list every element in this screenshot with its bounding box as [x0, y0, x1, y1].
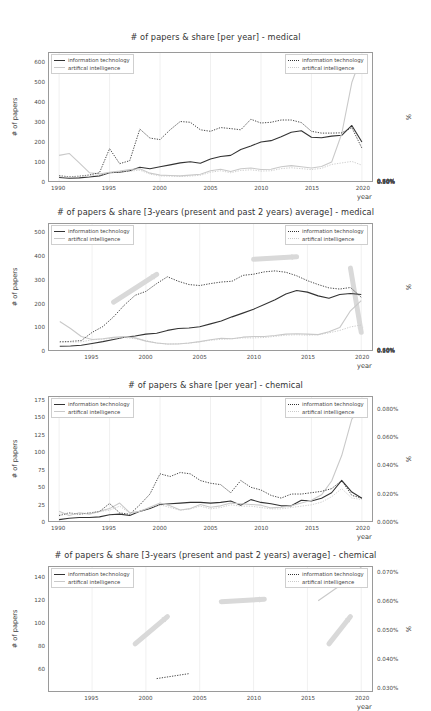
legend-item[interactable]: information technology [288, 228, 364, 234]
legend-item[interactable]: artifical intelligence [54, 65, 130, 71]
legend-line-swatch [54, 60, 65, 61]
legend-item[interactable]: information technology [288, 571, 364, 577]
x-axis-tick-label: 1990 [51, 525, 65, 531]
legend-right[interactable]: information technologyartifical intellig… [285, 568, 368, 588]
x-axis-tick-label: 2020 [355, 354, 369, 360]
x-axis-tick-label: 2005 [193, 695, 207, 701]
annotation-arrow [135, 617, 167, 644]
x-axis-label: year [357, 193, 372, 201]
secondary-y-axis-label: % [405, 284, 413, 290]
x-axis-tick-label: 2000 [153, 525, 167, 531]
legend-line-swatch [54, 404, 65, 405]
secondary-y-axis-tick-label: 0.060% [377, 434, 398, 440]
legend-line-swatch [288, 60, 299, 61]
x-axis-tick-label: 2010 [247, 695, 261, 701]
legend-item-label: artifical intelligence [302, 65, 354, 71]
legend-left[interactable]: information technologyartifical intellig… [51, 568, 134, 588]
annotation-arrow [350, 268, 361, 332]
legend-right[interactable]: information technologyartifical intellig… [285, 225, 368, 245]
x-axis-tick-label: 2000 [153, 185, 167, 191]
secondary-y-axis-label: % [405, 626, 413, 632]
y-axis-tick-label: 175 [26, 397, 45, 403]
x-axis-tick-label: 2005 [203, 525, 217, 531]
legend-item-label: artifical intelligence [302, 409, 354, 415]
x-axis-tick-label: 2020 [355, 695, 369, 701]
legend-item[interactable]: artifical intelligence [288, 579, 364, 585]
legend-right[interactable]: information technologyartifical intellig… [285, 398, 368, 418]
legend-item-label: information technology [302, 401, 364, 407]
legend-item-label: information technology [68, 57, 130, 63]
x-axis-tick-label: 2010 [254, 185, 268, 191]
y-axis-tick-label: 100 [26, 159, 45, 165]
secondary-y-axis-tick-label: 0.070% [377, 569, 398, 575]
x-axis-tick-label: 2015 [305, 525, 319, 531]
legend-line-swatch [54, 238, 65, 239]
legend-item[interactable]: artifical intelligence [288, 65, 364, 71]
chart-title: # of papers & share [per year] - medical [0, 32, 431, 42]
legend-left[interactable]: information technologyartifical intellig… [51, 398, 134, 418]
x-axis-tick-label: 2020 [356, 525, 370, 531]
annotation-arrow [221, 599, 264, 601]
chart-title: # of papers & share [3-years (present an… [0, 207, 431, 217]
secondary-y-axis-tick-label: 0.050% [377, 627, 398, 633]
legend-item[interactable]: information technology [288, 401, 364, 407]
legend-left[interactable]: information technologyartifical intellig… [51, 54, 134, 74]
legend-item-label: information technology [68, 401, 130, 407]
series-line [60, 301, 361, 344]
legend-line-swatch [288, 238, 299, 239]
y-axis-tick-label: 300 [26, 119, 45, 125]
legend-item[interactable]: artifical intelligence [288, 409, 364, 415]
chart-chemical-per-year: # of papers & share [per year] - chemica… [0, 378, 431, 548]
chart-medical-3yr-average: # of papers & share [3-years (present an… [0, 205, 431, 378]
y-axis-tick-label: 50 [26, 484, 45, 490]
legend-right[interactable]: information technologyartifical intellig… [285, 54, 368, 74]
legend-left[interactable]: information technologyartifical intellig… [51, 225, 134, 245]
series-line [60, 271, 361, 342]
secondary-y-axis-tick-label: 0.080% [377, 406, 398, 412]
secondary-y-axis-tick-label: 0.60% [377, 347, 395, 353]
chart-medical-per-year: # of papers & share [per year] - medical… [0, 30, 431, 205]
legend-item[interactable]: artifical intelligence [54, 409, 130, 415]
annotation-arrow [329, 617, 351, 644]
legend-item[interactable]: information technology [54, 571, 130, 577]
y-axis-tick-label: 400 [26, 253, 45, 259]
secondary-y-axis-label: % [405, 456, 413, 462]
legend-item-label: information technology [302, 571, 364, 577]
y-axis-tick-label: 0 [26, 519, 45, 525]
legend-line-swatch [288, 581, 299, 582]
legend-item[interactable]: information technology [54, 228, 130, 234]
legend-item[interactable]: artifical intelligence [54, 236, 130, 242]
chart-title: # of papers & share [3-years (present an… [0, 550, 431, 560]
y-axis-label: # of papers [11, 440, 19, 479]
y-axis-tick-label: 60 [26, 666, 45, 672]
secondary-y-axis-tick-label: 0.020% [377, 491, 398, 497]
legend-line-swatch [54, 411, 65, 412]
x-axis-tick-label: 1995 [102, 185, 116, 191]
legend-item[interactable]: information technology [54, 57, 130, 63]
legend-line-swatch [54, 581, 65, 582]
x-axis-tick-label: 2000 [138, 695, 152, 701]
y-axis-tick-label: 80 [26, 643, 45, 649]
y-axis-tick-label: 100 [26, 324, 45, 330]
legend-item[interactable]: information technology [54, 401, 130, 407]
x-axis-tick-label: 2015 [301, 695, 315, 701]
legend-line-swatch [288, 67, 299, 68]
x-axis-label: year [357, 533, 372, 541]
y-axis-tick-label: 200 [26, 301, 45, 307]
legend-item[interactable]: artifical intelligence [288, 236, 364, 242]
secondary-y-axis-tick-label: 0.000% [377, 519, 398, 525]
y-axis-tick-label: 0 [26, 348, 45, 354]
legend-item-label: artifical intelligence [68, 65, 120, 71]
y-axis-tick-label: 100 [26, 620, 45, 626]
x-axis-tick-label: 2010 [247, 354, 261, 360]
legend-item-label: artifical intelligence [68, 409, 120, 415]
legend-item[interactable]: information technology [288, 57, 364, 63]
y-axis-tick-label: 400 [26, 99, 45, 105]
chart-chemical-3yr-average: # of papers & share [3-years (present an… [0, 548, 431, 653]
y-axis-label: # of papers [11, 610, 19, 649]
y-axis-tick-label: 75 [26, 467, 45, 473]
legend-item[interactable]: artifical intelligence [54, 579, 130, 585]
legend-item-label: artifical intelligence [68, 236, 120, 242]
legend-item-label: information technology [68, 571, 130, 577]
secondary-y-axis-tick-label: 0.80% [377, 178, 395, 184]
